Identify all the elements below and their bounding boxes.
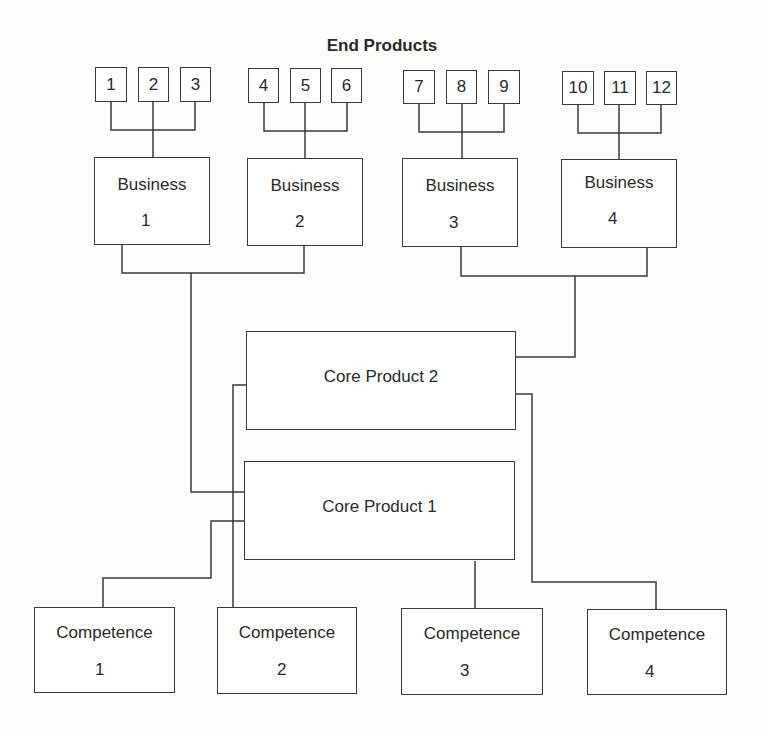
competence-number: 2	[277, 660, 286, 680]
end-product-label: 10	[569, 78, 588, 98]
end-product-box: 6	[331, 68, 362, 103]
diagram-title: End Products	[0, 36, 764, 56]
competence-number: 3	[460, 661, 469, 681]
business-number: 1	[141, 211, 150, 231]
end-product-box: 4	[248, 68, 279, 103]
business-number: 3	[449, 213, 458, 233]
competence-number: 4	[645, 662, 654, 682]
end-product-box: 10	[562, 71, 594, 105]
end-product-box: 2	[138, 67, 169, 102]
core-product-1-box: Core Product 1	[244, 461, 515, 560]
competence-box-1: Competence 1	[34, 607, 175, 693]
core-product-label: Core Product 2	[324, 367, 438, 387]
competence-label: Competence	[588, 625, 726, 645]
competence-box-2: Competence 2	[217, 607, 357, 694]
end-product-box: 12	[646, 71, 677, 105]
business-box-3: Business 3	[402, 158, 518, 247]
competence-label: Competence	[35, 623, 174, 643]
business-label: Business	[95, 175, 209, 195]
end-product-box: 5	[290, 68, 321, 103]
end-product-box: 8	[446, 70, 477, 104]
business-label: Business	[562, 173, 676, 193]
business-box-2: Business 2	[247, 158, 363, 246]
competence-number: 1	[95, 660, 104, 680]
end-product-box: 1	[95, 67, 127, 102]
end-product-label: 12	[652, 78, 671, 98]
business-number: 2	[295, 212, 304, 232]
business-label: Business	[248, 176, 362, 196]
end-product-label: 7	[414, 77, 423, 97]
competence-box-4: Competence 4	[587, 609, 727, 695]
end-product-label: 8	[457, 77, 466, 97]
business-box-4: Business 4	[561, 159, 677, 248]
end-product-box: 9	[488, 70, 520, 104]
business-number: 4	[608, 209, 617, 229]
end-product-label: 9	[499, 77, 508, 97]
end-product-label: 11	[611, 78, 629, 98]
end-product-box: 7	[403, 70, 435, 104]
end-product-label: 2	[149, 75, 158, 95]
competence-label: Competence	[402, 624, 542, 644]
end-product-label: 3	[191, 75, 200, 95]
core-product-label: Core Product 1	[322, 497, 436, 517]
competence-box-3: Competence 3	[401, 608, 543, 695]
end-product-label: 6	[342, 76, 351, 96]
competence-label: Competence	[218, 623, 356, 643]
business-box-1: Business 1	[94, 157, 210, 245]
end-product-box: 3	[180, 67, 211, 102]
core-product-2-box: Core Product 2	[246, 331, 516, 430]
end-product-label: 4	[259, 76, 268, 96]
end-product-label: 1	[106, 75, 115, 95]
end-product-box: 11	[604, 71, 636, 105]
end-product-label: 5	[301, 76, 310, 96]
business-label: Business	[403, 176, 517, 196]
